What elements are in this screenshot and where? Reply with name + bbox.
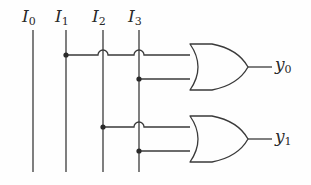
input-label-i0-base: I [22, 6, 29, 26]
input-label-i2: I2 [92, 8, 106, 25]
or-gate-1 [190, 116, 272, 162]
junction-dot-i3-row3 [136, 148, 141, 153]
output-label-y1-subscript: 1 [285, 135, 292, 148]
input-label-i2-base: I [92, 6, 99, 26]
input-label-i3-subscript: 3 [135, 15, 142, 28]
or-gate-1-body [190, 116, 248, 162]
output-label-y1: y1 [275, 128, 292, 145]
junction-dot-i2-row2 [100, 124, 105, 129]
or-gate-0 [190, 44, 272, 90]
input-label-i2-subscript: 2 [99, 15, 106, 28]
output-label-y0: y0 [275, 56, 292, 73]
output-label-y0-base: y [275, 54, 285, 74]
circuit-schematic-svg [0, 0, 311, 185]
input-label-i3: I3 [128, 8, 142, 25]
input-label-i0: I0 [22, 8, 36, 25]
wire-i2-to-or-gate-1-input-0 [103, 122, 190, 127]
input-label-i1: I1 [55, 8, 69, 25]
junction-dot-i3-row1 [136, 76, 141, 81]
junction-dot-i1-row0 [63, 52, 68, 57]
output-label-y1-base: y [275, 126, 285, 146]
or-gate-0-body [190, 44, 248, 90]
input-label-i0-subscript: 0 [29, 15, 36, 28]
input-label-i3-base: I [128, 6, 135, 26]
circuit-diagram-canvas: I0 I1 I2 I3 y0 y1 [0, 0, 311, 185]
output-label-y0-subscript: 0 [285, 63, 292, 76]
wire-i1-to-or-gate-0-input-0 [66, 50, 190, 55]
input-label-i1-subscript: 1 [62, 15, 69, 28]
input-bus-lines [33, 30, 139, 172]
input-label-i1-base: I [55, 6, 62, 26]
